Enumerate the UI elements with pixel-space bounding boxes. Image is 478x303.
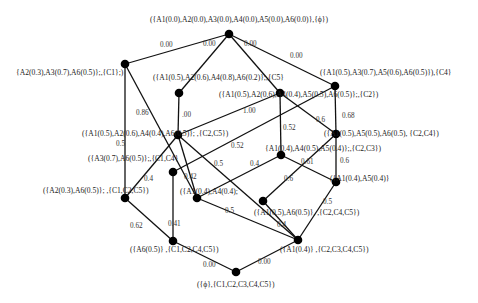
lattice-node-n1 bbox=[121, 60, 130, 69]
edge-weight-label: 0.6 bbox=[340, 157, 349, 165]
edge-weight-label: 0.00 bbox=[244, 40, 257, 48]
lattice-node-n2 bbox=[175, 89, 184, 98]
edge-weight-label: 0.4 bbox=[277, 221, 286, 229]
concept-label: ({A1(0.5),A3(0.7),A5(0.6),A6(0.5)}),{C4} bbox=[320, 68, 451, 77]
lattice-node-n4 bbox=[331, 82, 340, 91]
concept-label: ({A1(0.5),A2(0.6),A4(0.4),A5(0.5),A6(0.5… bbox=[219, 90, 379, 99]
edge-weight-label: 0.5 bbox=[225, 207, 234, 215]
lattice-node-n11 bbox=[259, 197, 268, 206]
concept-label: ({A6(0.5)} ,{C1,C2,C4,C5}) bbox=[130, 245, 219, 254]
concept-label: ({A3(0.7),A6(0.5)};,{C1,C4} bbox=[88, 154, 178, 163]
concept-label: ({A1(0.5),A2(0.6),A4(0.4),A6(0.5)}; ,{C2… bbox=[82, 129, 229, 138]
edge-weight-label: 0.5 bbox=[214, 160, 223, 168]
edges-layer bbox=[125, 34, 336, 272]
edge-n9-n14 bbox=[125, 198, 173, 241]
edge-weight-label: 0.00 bbox=[160, 41, 173, 49]
edge-weight-label: 0.5 bbox=[323, 198, 332, 206]
concept-label: ({A1(0.5),A6(0.5)}, ,{C2,C4,C5}) bbox=[254, 208, 360, 217]
edge-weight-label: 0.6 bbox=[284, 175, 293, 183]
edge-weight-label: 1.00 bbox=[243, 107, 256, 115]
edge-weight-label: 0.61 bbox=[301, 158, 314, 166]
edge-weight-label: 0.68 bbox=[342, 112, 355, 120]
lattice-node-n14 bbox=[169, 237, 178, 246]
edge-weight-label: 0.41 bbox=[168, 220, 181, 228]
edge-weight-label: 0.6 bbox=[316, 116, 325, 124]
edge-weight-label: 0.62 bbox=[130, 222, 143, 230]
edge-weight-label: 0.00 bbox=[258, 258, 271, 266]
edge-weight-label: .00 bbox=[182, 111, 191, 119]
edge-weight-label: 0.52 bbox=[283, 124, 296, 132]
concept-label: ({A1(0.4)} ,{C2,C3,C4,C5}) bbox=[280, 245, 369, 254]
edge-n10-n13 bbox=[197, 198, 298, 240]
lattice-node-n8 bbox=[169, 168, 178, 177]
edge-weight-label: 0.42 bbox=[184, 173, 197, 181]
concept-label: ({A1(0.4),A4(0.4); bbox=[180, 187, 238, 196]
edge-weight-label: 0.00 bbox=[203, 40, 216, 48]
lattice-node-n0 bbox=[225, 30, 234, 39]
lattice-node-n13 bbox=[294, 236, 303, 245]
concept-label: ({A1(0.5),A2(0.6),A4(0.8),A6(0.2)};,{C5} bbox=[153, 73, 284, 82]
nodes-layer bbox=[121, 30, 341, 277]
edge-weight-label: 0.86 bbox=[136, 109, 149, 117]
edge-weight-label: 0.52 bbox=[231, 142, 244, 150]
edge-weight-label: 0.4 bbox=[250, 160, 259, 168]
concept-label: ({A2(0.3),A6(0.5)}; ,{C1,C2,C5}) bbox=[43, 186, 149, 195]
concept-lattice-diagram: 0.000.000.000.000.50.86.001.000.520.60.6… bbox=[0, 0, 478, 303]
lattice-node-n15 bbox=[232, 268, 241, 277]
edge-weight-label: 0.4 bbox=[144, 175, 153, 183]
concept-label: ({A1(0.0),A2(0.0),A3(0.0),A4(0.0),A5(0.0… bbox=[150, 15, 328, 24]
edge-weight-label: 0.5 bbox=[116, 140, 125, 148]
concept-label: {A1(0.4),A4(0.5),A5(0.4)};,{C2,C3}) bbox=[265, 144, 381, 153]
concept-label: ({A1(0.5),A5(0.5),A6(0.5), {C2,C4}) bbox=[324, 129, 439, 138]
concept-label: ({A1(0.4),A5(0.4)} bbox=[330, 174, 389, 183]
concept-label: {A2(0.3),A3(0.7),A6(0.5)};,{C1};) bbox=[16, 68, 124, 77]
edge-weight-label: 0.00 bbox=[203, 261, 216, 269]
edge-weight-label: 0.00 bbox=[290, 52, 303, 60]
concept-label: ({ϕ},{C1,C2,C3,C4,C5}) bbox=[197, 280, 275, 289]
node-labels-layer: ({A1(0.0),A2(0.0),A3(0.0),A4(0.0),A5(0.0… bbox=[16, 15, 451, 289]
edge-n0-n1 bbox=[125, 34, 229, 64]
